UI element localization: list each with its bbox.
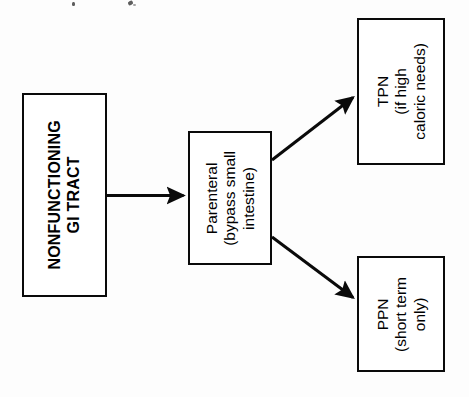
node-label-line-2: (bypass small	[221, 151, 238, 246]
node-label-line-1: Parenteral	[203, 162, 220, 234]
node-label-line-2: (short term	[392, 277, 409, 352]
node-nonfunctioning-gi-tract: NONFUNCTIONINGGI TRACT	[22, 93, 107, 297]
node-tpn: TPN(if highcaloric needs)	[357, 18, 445, 165]
node-label-line-2: GI TRACT	[65, 156, 82, 233]
node-ppn: PPN(short termonly)	[357, 256, 445, 372]
scan-artifact-speck	[72, 2, 75, 6]
node-label: TPN(if highcaloric needs)	[374, 43, 429, 140]
node-label-line-3: caloric needs)	[410, 43, 427, 140]
node-label-line-3: only)	[410, 297, 427, 331]
node-parenteral: Parenteral(bypass smallintestine)	[188, 131, 272, 265]
node-label-line-1: NONFUNCTIONING	[46, 120, 63, 269]
node-label: Parenteral(bypass smallintestine)	[203, 151, 258, 246]
node-label: PPN(short termonly)	[374, 277, 429, 352]
node-label-line-1: PPN	[374, 298, 391, 330]
edge-route-to-ppn	[272, 237, 353, 298]
edge-route-to-tpn	[272, 98, 353, 161]
node-label-line-2: (if high	[392, 68, 409, 115]
diagram-canvas: NONFUNCTIONINGGI TRACT Parenteral(bypass…	[0, 0, 469, 397]
node-label-line-3: intestine)	[239, 167, 256, 230]
node-label: NONFUNCTIONINGGI TRACT	[46, 120, 84, 269]
node-label-line-1: TPN	[374, 76, 391, 107]
scan-artifact-speck	[133, 4, 136, 6]
